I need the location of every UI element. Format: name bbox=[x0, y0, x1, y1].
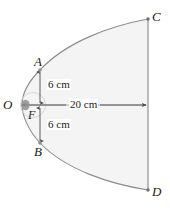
point-marker-D bbox=[146, 188, 149, 191]
dimension-label-20cm: 20 cm bbox=[69, 99, 98, 110]
point-label-A: A bbox=[34, 55, 42, 68]
point-label-O: O bbox=[3, 98, 12, 111]
point-label-B: B bbox=[34, 145, 42, 158]
parabola-figure: O F A B C D 6 cm 6 cm 20 cm bbox=[0, 0, 170, 209]
point-marker-C bbox=[146, 17, 149, 20]
point-label-D: D bbox=[152, 185, 161, 198]
point-label-C: C bbox=[152, 10, 161, 23]
dimension-label-6cm-top: 6 cm bbox=[47, 79, 71, 90]
dimension-label-6cm-bottom: 6 cm bbox=[47, 119, 71, 130]
point-label-F: F bbox=[28, 109, 35, 121]
